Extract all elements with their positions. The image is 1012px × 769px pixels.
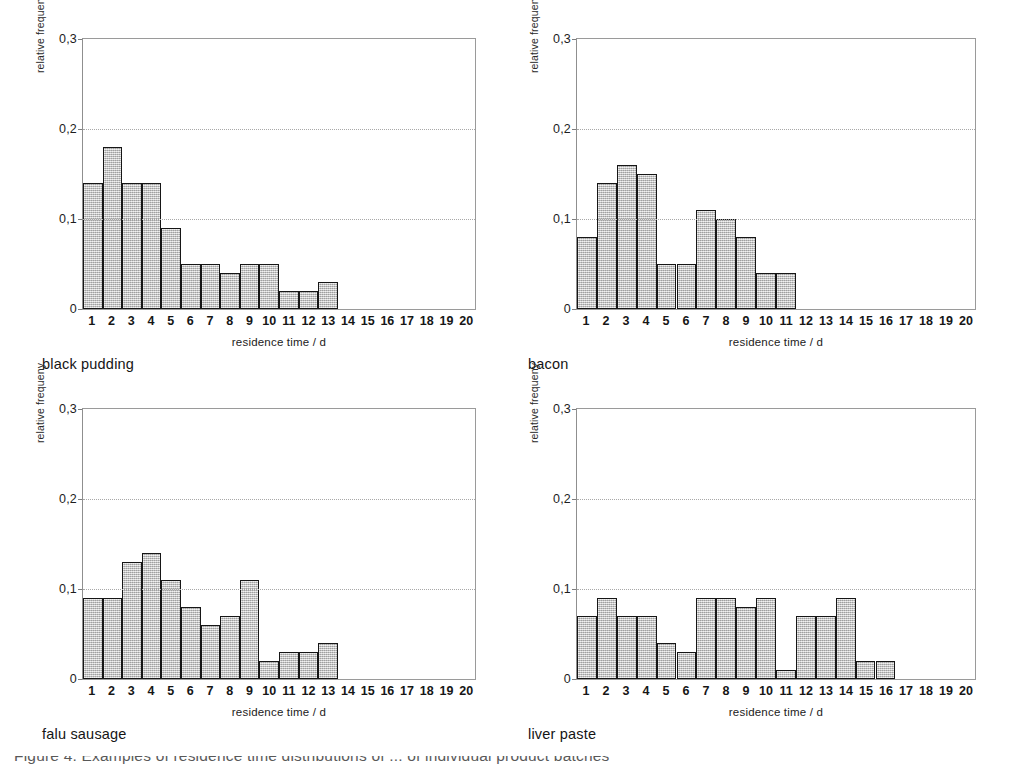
y-tick-label: 0,2 xyxy=(59,492,77,506)
y-tick-label: 0 xyxy=(70,302,77,316)
histogram-bar xyxy=(122,183,142,309)
x-tick-label: 5 xyxy=(167,684,174,698)
histogram-bar xyxy=(836,598,856,679)
x-tick-label: 1 xyxy=(583,684,590,698)
histogram-bar xyxy=(756,273,776,309)
histogram-bar xyxy=(122,562,142,679)
y-tick-label: 0,2 xyxy=(59,122,77,136)
x-tick-label: 6 xyxy=(683,314,690,328)
x-axis-title: residence time / d xyxy=(82,706,476,718)
x-tick-label: 19 xyxy=(439,314,453,328)
figure-sheet: relative frequeny 0,30,20,10 12345678910… xyxy=(0,0,1012,769)
x-tick-label: 16 xyxy=(380,684,394,698)
x-tick-label: 10 xyxy=(262,684,276,698)
histogram-bar xyxy=(577,616,597,679)
x-tick-label: 15 xyxy=(859,314,873,328)
x-tick-label: 20 xyxy=(959,314,973,328)
x-tick-labels: 1234567891011121314151617181920 xyxy=(82,314,476,332)
x-tick-label: 18 xyxy=(919,684,933,698)
x-tick-label: 14 xyxy=(341,684,355,698)
x-tick-label: 17 xyxy=(400,314,414,328)
histogram-bar xyxy=(597,183,617,309)
histogram-bar xyxy=(161,228,181,309)
histogram-bar xyxy=(677,264,697,309)
x-tick-label: 2 xyxy=(603,314,610,328)
x-tick-label: 12 xyxy=(799,684,813,698)
y-tick-label: 0 xyxy=(564,672,571,686)
x-tick-label: 3 xyxy=(623,684,630,698)
x-tick-label: 12 xyxy=(302,314,316,328)
x-tick-label: 6 xyxy=(187,684,194,698)
x-tick-label: 13 xyxy=(819,684,833,698)
x-tick-label: 9 xyxy=(743,314,750,328)
y-tick-mark xyxy=(78,679,82,680)
plot-area-falu-sausage: 0,30,20,10 xyxy=(82,408,476,680)
x-tick-label: 16 xyxy=(879,314,893,328)
y-tick-mark xyxy=(78,219,82,220)
y-tick-label: 0,1 xyxy=(553,212,571,226)
x-tick-label: 20 xyxy=(459,314,473,328)
x-tick-label: 10 xyxy=(759,684,773,698)
histogram-bar xyxy=(240,264,260,309)
panel-caption-black-pudding: black pudding xyxy=(42,356,134,372)
histogram-bar xyxy=(259,661,279,679)
gridline xyxy=(83,219,475,220)
gridline xyxy=(577,129,975,130)
bar-series-falu-sausage xyxy=(83,409,475,679)
x-tick-label: 8 xyxy=(723,314,730,328)
histogram-bar xyxy=(220,616,240,679)
gridline xyxy=(83,499,475,500)
x-tick-label: 10 xyxy=(759,314,773,328)
x-tick-label: 4 xyxy=(147,314,154,328)
gridline xyxy=(83,129,475,130)
x-tick-label: 11 xyxy=(779,684,792,698)
x-tick-label: 4 xyxy=(643,684,650,698)
x-tick-label: 15 xyxy=(361,684,375,698)
x-tick-label: 3 xyxy=(128,684,135,698)
x-tick-label: 11 xyxy=(779,314,792,328)
x-tick-label: 2 xyxy=(108,684,115,698)
histogram-bar xyxy=(142,183,162,309)
panel-caption-falu-sausage: falu sausage xyxy=(42,726,127,742)
x-tick-label: 14 xyxy=(839,314,853,328)
x-tick-label: 4 xyxy=(643,314,650,328)
histogram-bar xyxy=(103,147,123,309)
x-tick-label: 19 xyxy=(939,314,953,328)
x-tick-label: 13 xyxy=(321,314,335,328)
histogram-bar xyxy=(716,598,736,679)
x-tick-label: 1 xyxy=(88,684,95,698)
y-tick-mark xyxy=(572,409,576,410)
y-tick-mark xyxy=(78,39,82,40)
histogram-bar xyxy=(736,237,756,309)
histogram-bar xyxy=(816,616,836,679)
histogram-bar xyxy=(201,625,221,679)
histogram-bar xyxy=(318,282,338,309)
y-tick-mark xyxy=(572,219,576,220)
histogram-bar xyxy=(103,598,123,679)
histogram-bar xyxy=(318,643,338,679)
y-tick-label: 0,2 xyxy=(553,492,571,506)
histogram-bar xyxy=(299,291,319,309)
y-axis-title: relative frequeny xyxy=(34,0,46,118)
y-tick-label: 0,1 xyxy=(553,582,571,596)
y-tick-mark xyxy=(572,679,576,680)
x-tick-label: 3 xyxy=(128,314,135,328)
histogram-bar xyxy=(696,598,716,679)
bar-series-black-pudding xyxy=(83,39,475,309)
x-tick-label: 20 xyxy=(959,684,973,698)
y-tick-label: 0,3 xyxy=(553,402,571,416)
histogram-bar xyxy=(637,616,657,679)
histogram-bar xyxy=(181,264,201,309)
x-tick-label: 9 xyxy=(246,684,253,698)
histogram-bar xyxy=(776,670,796,679)
y-tick-mark xyxy=(572,589,576,590)
x-tick-label: 8 xyxy=(226,684,233,698)
x-tick-label: 2 xyxy=(108,314,115,328)
x-tick-label: 5 xyxy=(167,314,174,328)
x-tick-label: 14 xyxy=(839,684,853,698)
y-axis-title: relative frequeny xyxy=(34,318,46,488)
histogram-bar xyxy=(716,219,736,309)
histogram-bar xyxy=(240,580,260,679)
y-axis-title: relative frequeny xyxy=(528,0,540,118)
chart-panel-bacon: relative frequeny 0,30,20,10 12345678910… xyxy=(510,18,990,388)
